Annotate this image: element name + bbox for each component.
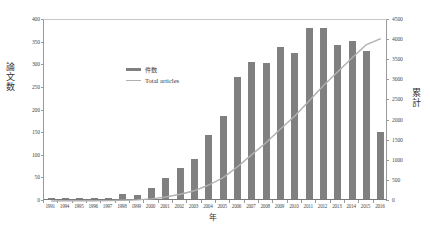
y-axis-left-title: 論文数 <box>4 62 17 92</box>
y-axis-left-tick-label: 400 <box>18 16 40 22</box>
legend-bar-swatch-icon <box>126 68 141 72</box>
x-axis-tick-label: 2016 <box>367 203 393 209</box>
y-axis-right-tick-label: 4500 <box>392 16 418 22</box>
legend: 件数 Total articles <box>126 64 179 86</box>
y-axis-right-tick-label: 2000 <box>392 117 418 123</box>
y-axis-left-tick-label: 100 <box>18 152 40 158</box>
plot-area: 件数 Total articles <box>43 19 387 200</box>
cumulative-line <box>44 20 388 201</box>
x-axis-title: 年 <box>209 211 217 222</box>
y-axis-right-tick-label: 4000 <box>392 36 418 42</box>
legend-item-line: Total articles <box>126 75 179 86</box>
y-axis-right-tick-label: 1500 <box>392 137 418 143</box>
chart-figure: 論文数 累計 年 050100150200250300350400 050010… <box>0 0 430 237</box>
y-axis-right-tick-label: 1000 <box>392 157 418 163</box>
y-axis-left-tick-label: 250 <box>18 84 40 90</box>
y-axis-right-tick-label: 2500 <box>392 96 418 102</box>
y-axis-left-tick-label: 300 <box>18 61 40 67</box>
y-axis-right-tick-label: 3500 <box>392 56 418 62</box>
y-axis-right-tick-label: 0 <box>392 197 418 203</box>
y-axis-left-tick-label: 350 <box>18 39 40 45</box>
line-series <box>44 20 386 199</box>
legend-label-line: Total articles <box>145 77 179 84</box>
legend-line-swatch-icon <box>126 80 141 82</box>
legend-label-bars: 件数 <box>145 65 157 74</box>
y-axis-left-tick-label: 200 <box>18 107 40 113</box>
y-axis-right-tick-label: 3000 <box>392 76 418 82</box>
legend-item-bars: 件数 <box>126 64 179 75</box>
y-axis-right-tick-label: 500 <box>392 177 418 183</box>
y-axis-left-tick-label: 50 <box>18 174 40 180</box>
y-axis-left-tick-label: 150 <box>18 129 40 135</box>
